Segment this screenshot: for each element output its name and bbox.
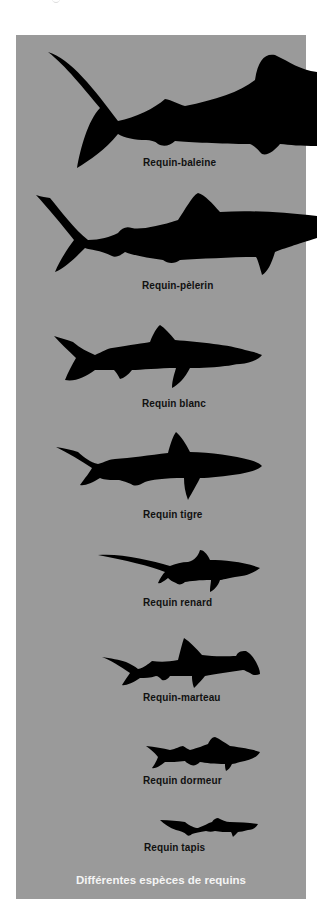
nurse-shark-silhouette <box>146 737 260 771</box>
species-label-tiger-shark: Requin tigre <box>143 509 203 520</box>
tiger-shark-silhouette <box>56 432 262 500</box>
species-label-hammerhead-shark: Requin-marteau <box>143 692 221 703</box>
white-shark-silhouette <box>54 325 262 388</box>
species-label-white-shark: Requin blanc <box>142 398 206 409</box>
carpet-shark-silhouette <box>160 818 258 837</box>
species-label-thresher-shark: Requin renard <box>143 597 212 608</box>
figure-caption: Différentes espèces de requins <box>16 874 306 886</box>
species-label-nurse-shark: Requin dormeur <box>143 775 222 786</box>
species-label-whale-shark: Requin-baleine <box>143 157 216 168</box>
hammerhead-shark-silhouette <box>102 638 260 688</box>
species-label-basking-shark: Requin-pèlerin <box>142 280 213 291</box>
thresher-shark-silhouette <box>98 550 260 592</box>
species-label-carpet-shark: Requin tapis <box>144 842 205 853</box>
whale-shark-silhouette <box>48 52 317 168</box>
basking-shark-silhouette <box>36 193 317 275</box>
